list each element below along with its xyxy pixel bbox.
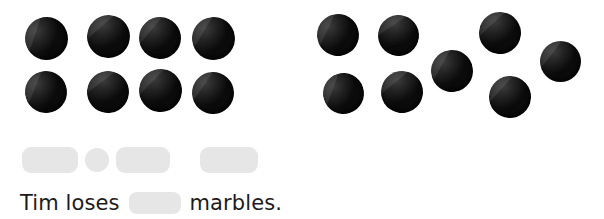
marble [136, 66, 183, 113]
marble [191, 71, 235, 115]
worksheet-canvas: = Tim loses marbles. [0, 0, 604, 219]
marble [372, 9, 424, 61]
sentence-suffix: marbles. [190, 189, 282, 217]
sentence-answer-blank[interactable] [129, 192, 181, 214]
equation-blank-difference[interactable] [200, 147, 258, 173]
marble [488, 75, 533, 120]
marble-group-left [0, 0, 300, 128]
marble [20, 66, 72, 118]
marble [476, 9, 524, 57]
marble [377, 67, 427, 117]
marble [189, 14, 237, 62]
marble [138, 16, 181, 59]
marble [82, 66, 133, 117]
equation-blank-minuend[interactable] [22, 147, 78, 173]
sentence-row: Tim loses marbles. [20, 188, 282, 218]
marble [540, 41, 581, 82]
marble [18, 10, 73, 65]
equation-blank-subtrahend[interactable] [116, 147, 170, 173]
marble-group-right [300, 0, 604, 128]
equation-blank-operator[interactable] [85, 148, 109, 172]
sentence-prefix: Tim loses [20, 189, 120, 217]
marble [313, 10, 363, 60]
equation-row: = [0, 140, 604, 180]
marble [83, 11, 133, 61]
marble [428, 47, 476, 95]
marble [317, 67, 369, 119]
